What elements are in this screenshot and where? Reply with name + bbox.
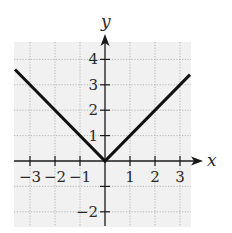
y-tick-label: −2 — [76, 203, 98, 221]
x-tick-label: 1 — [125, 168, 135, 186]
x-axis-label: x — [207, 150, 217, 170]
x-tick-label: 3 — [175, 168, 185, 186]
y-tick-label: 4 — [88, 50, 98, 68]
grid-background — [14, 42, 191, 227]
x-tick-label: 2 — [150, 168, 160, 186]
y-tick-label: 2 — [88, 101, 98, 119]
absolute-value-graph: x y −3−2−1123−21234 — [0, 0, 232, 233]
y-axis-label: y — [100, 11, 111, 31]
x-tick-label: −3 — [19, 168, 41, 186]
y-tick-label: 3 — [88, 76, 98, 94]
y-tick-label: 1 — [88, 127, 98, 145]
x-tick-label: −1 — [69, 168, 91, 186]
x-tick-label: −2 — [44, 168, 66, 186]
